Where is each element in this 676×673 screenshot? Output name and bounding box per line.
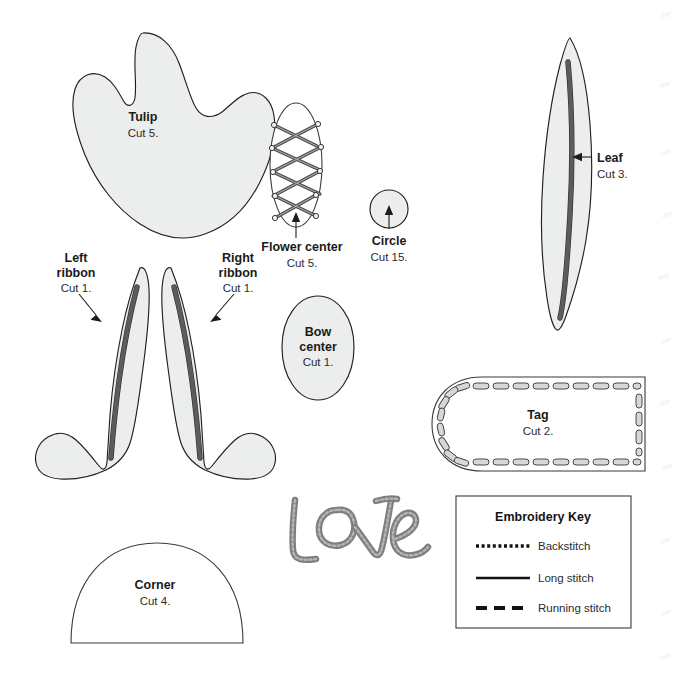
tag-stitches-bottom — [473, 459, 641, 465]
flower-center-label-sub: Cut 5. — [287, 257, 318, 269]
key-label-running-stitch: Running stitch — [538, 602, 611, 614]
circle-label-sub: Cut 15. — [370, 251, 407, 263]
bow-center-label-title-2: center — [299, 340, 337, 354]
right-ribbon-label-sub: Cut 1. — [223, 282, 254, 294]
bow-center-label-title-1: Bow — [305, 325, 332, 339]
tulip-label-title: Tulip — [129, 110, 158, 124]
left-ribbon-label-title-1: Left — [65, 251, 89, 265]
bow-center-label-sub: Cut 1. — [303, 356, 334, 368]
tag-label-title: Tag — [527, 408, 548, 422]
key-label-long-stitch: Long stitch — [538, 572, 594, 584]
corner-label-title: Corner — [135, 578, 176, 592]
right-ribbon-label-title-1: Right — [222, 251, 255, 265]
left-ribbon-label-sub: Cut 1. — [61, 282, 92, 294]
piece-tag[interactable]: Tag Cut 2. — [432, 377, 645, 471]
tag-stitches-top — [473, 383, 641, 389]
tag-outline — [432, 377, 645, 471]
tulip-label-sub: Cut 5. — [128, 127, 159, 139]
right-ribbon-label-title-2: ribbon — [219, 266, 258, 280]
embroidery-key-title: Embroidery Key — [495, 510, 591, 524]
pattern-sheet: Tulip Cut 5. — [0, 0, 676, 673]
leaf-label-sub: Cut 3. — [597, 168, 628, 180]
tag-label-sub: Cut 2. — [523, 425, 554, 437]
corner-label-sub: Cut 4. — [140, 595, 171, 607]
key-label-backstitch: Backstitch — [538, 540, 590, 552]
circle-label-title: Circle — [372, 234, 407, 248]
flower-center-label-title: Flower center — [261, 240, 342, 254]
leaf-label-title: Leaf — [597, 151, 624, 165]
flower-center-outline — [270, 103, 322, 227]
embroidery-key[interactable]: Embroidery Key Backstitch Long stitch Ru… — [456, 496, 631, 628]
left-ribbon-label-title-2: ribbon — [57, 266, 96, 280]
piece-bow-center[interactable]: Bow center Cut 1. — [282, 296, 354, 400]
